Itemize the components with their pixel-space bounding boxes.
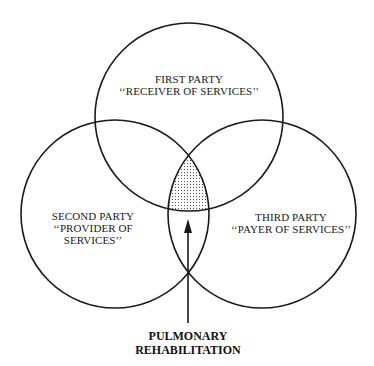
intersection-caption: PULMONARY REHABILITATION [128,329,248,357]
second-party-subtitle: ‘‘PROVIDER OF [38,222,148,234]
third-party-subtitle: ‘‘PAYER OF SERVICES’’ [226,223,356,235]
venn-svg [0,0,374,366]
second-party-label: SECOND PARTY ‘‘PROVIDER OF SERVICES’’ [38,210,148,246]
third-party-label: THIRD PARTY ‘‘PAYER OF SERVICES’’ [226,211,356,235]
first-party-subtitle: ‘‘RECEIVER OF SERVICES’’ [119,85,259,97]
first-party-title: FIRST PARTY [119,73,259,85]
venn-diagram: FIRST PARTY ‘‘RECEIVER OF SERVICES’’ SEC… [0,0,374,366]
caption-line-1: PULMONARY [128,329,248,343]
first-party-label: FIRST PARTY ‘‘RECEIVER OF SERVICES’’ [119,73,259,97]
second-party-title: SECOND PARTY [38,210,148,222]
second-party-subtitle-2: SERVICES’’ [38,234,148,246]
third-party-title: THIRD PARTY [226,211,356,223]
arrow-head-icon [184,219,192,233]
caption-line-2: REHABILITATION [128,343,248,357]
